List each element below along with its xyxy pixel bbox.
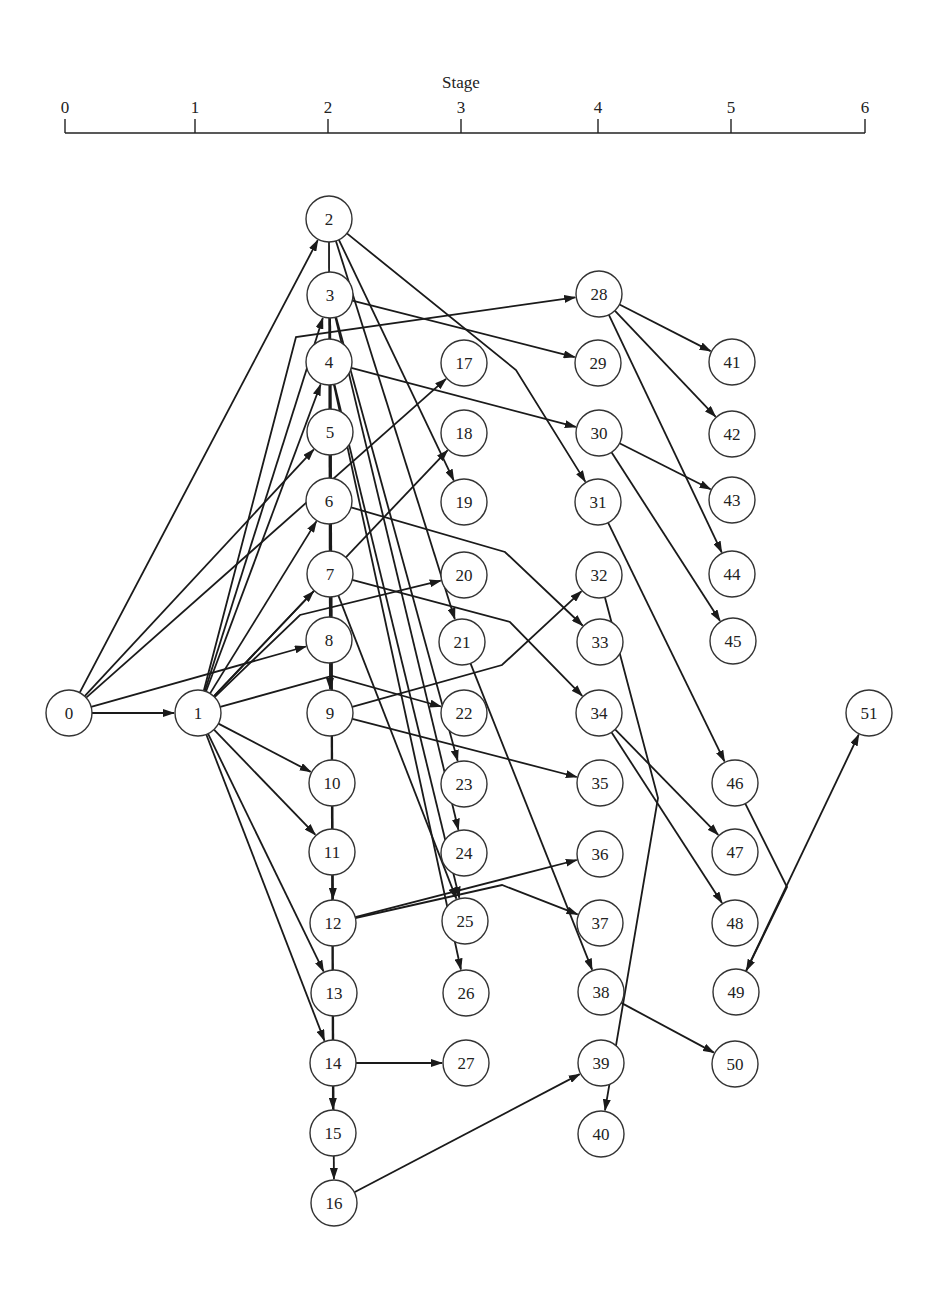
node-label: 12 bbox=[325, 914, 342, 933]
node-label: 8 bbox=[325, 631, 334, 650]
edge-21-to-38 bbox=[471, 663, 593, 969]
node-label: 32 bbox=[591, 566, 608, 585]
node-20: 20 bbox=[441, 552, 487, 598]
node-label: 4 bbox=[325, 353, 334, 372]
node-label: 10 bbox=[324, 774, 341, 793]
node-23: 23 bbox=[441, 761, 487, 807]
node-label: 30 bbox=[591, 424, 608, 443]
node-9: 9 bbox=[307, 690, 353, 736]
node-24: 24 bbox=[441, 830, 487, 876]
node-label: 37 bbox=[592, 914, 610, 933]
node-2: 2 bbox=[306, 196, 352, 242]
node-17: 17 bbox=[441, 340, 487, 386]
node-18: 18 bbox=[441, 410, 487, 456]
node-44: 44 bbox=[709, 551, 755, 597]
edge-34-to-48 bbox=[612, 732, 723, 903]
node-34: 34 bbox=[576, 690, 622, 736]
node-13: 13 bbox=[311, 970, 357, 1016]
node-51: 51 bbox=[846, 690, 892, 736]
node-label: 35 bbox=[592, 774, 609, 793]
node-7: 7 bbox=[307, 551, 353, 597]
edge-28-to-42 bbox=[615, 311, 716, 417]
node-label: 2 bbox=[325, 210, 334, 229]
node-12: 12 bbox=[310, 900, 356, 946]
node-5: 5 bbox=[307, 409, 353, 455]
node-1: 1 bbox=[175, 690, 221, 736]
axis-tick-label: 6 bbox=[861, 98, 870, 117]
node-37: 37 bbox=[577, 900, 623, 946]
node-label: 13 bbox=[326, 984, 343, 1003]
node-label: 44 bbox=[724, 565, 742, 584]
edge-38-to-50 bbox=[621, 1003, 714, 1053]
edge-1-to-11 bbox=[214, 730, 315, 835]
node-19: 19 bbox=[441, 479, 487, 525]
node-38: 38 bbox=[578, 969, 624, 1015]
node-40: 40 bbox=[578, 1111, 624, 1157]
node-label: 45 bbox=[725, 632, 742, 651]
node-30: 30 bbox=[576, 410, 622, 456]
node-8: 8 bbox=[306, 617, 352, 663]
node-35: 35 bbox=[577, 760, 623, 806]
node-label: 23 bbox=[456, 775, 473, 794]
node-36: 36 bbox=[577, 831, 623, 877]
node-label: 20 bbox=[456, 566, 473, 585]
node-3: 3 bbox=[307, 272, 353, 318]
node-28: 28 bbox=[576, 271, 622, 317]
node-label: 9 bbox=[326, 704, 335, 723]
node-22: 22 bbox=[441, 690, 487, 736]
node-label: 3 bbox=[326, 286, 335, 305]
node-label: 11 bbox=[324, 843, 340, 862]
edge-2-to-19 bbox=[339, 240, 454, 480]
node-label: 48 bbox=[727, 914, 744, 933]
node-label: 14 bbox=[325, 1054, 343, 1073]
node-6: 6 bbox=[306, 478, 352, 524]
node-41: 41 bbox=[709, 339, 755, 385]
axis-tick-label: 2 bbox=[324, 98, 333, 117]
node-label: 41 bbox=[724, 353, 741, 372]
node-10: 10 bbox=[309, 760, 355, 806]
edge-30-to-43 bbox=[620, 443, 711, 489]
node-39: 39 bbox=[578, 1040, 624, 1086]
node-label: 17 bbox=[456, 354, 474, 373]
node-label: 28 bbox=[591, 285, 608, 304]
node-16: 16 bbox=[311, 1180, 357, 1226]
node-label: 34 bbox=[591, 704, 609, 723]
node-47: 47 bbox=[712, 829, 758, 875]
node-label: 38 bbox=[593, 983, 610, 1002]
edge-0-to-5 bbox=[85, 450, 314, 696]
stage-axis: Stage 0123456 bbox=[61, 73, 870, 133]
node-label: 27 bbox=[458, 1054, 476, 1073]
axis-tick-label: 3 bbox=[457, 98, 466, 117]
axis-tick-label: 1 bbox=[191, 98, 200, 117]
node-label: 24 bbox=[456, 844, 474, 863]
edge-4-to-26 bbox=[334, 385, 461, 970]
node-11: 11 bbox=[309, 829, 355, 875]
node-0: 0 bbox=[46, 690, 92, 736]
node-4: 4 bbox=[306, 339, 352, 385]
edge-49-to-51 bbox=[746, 735, 859, 972]
node-label: 29 bbox=[590, 354, 607, 373]
node-label: 18 bbox=[456, 424, 473, 443]
node-label: 33 bbox=[592, 633, 609, 652]
node-label: 5 bbox=[326, 423, 335, 442]
axis-ticks: 0123456 bbox=[61, 98, 870, 133]
edge-16-to-39 bbox=[354, 1074, 579, 1192]
node-label: 22 bbox=[456, 704, 473, 723]
node-label: 31 bbox=[590, 493, 607, 512]
node-50: 50 bbox=[712, 1041, 758, 1087]
node-14: 14 bbox=[310, 1040, 356, 1086]
node-label: 50 bbox=[727, 1055, 744, 1074]
node-29: 29 bbox=[575, 340, 621, 386]
node-label: 47 bbox=[727, 843, 745, 862]
node-label: 6 bbox=[325, 492, 334, 511]
node-label: 16 bbox=[326, 1194, 343, 1213]
node-42: 42 bbox=[709, 411, 755, 457]
nodes: 0123456789101112131415161718192021222324… bbox=[46, 196, 892, 1226]
node-label: 0 bbox=[65, 704, 74, 723]
node-label: 43 bbox=[724, 491, 741, 510]
axis-title: Stage bbox=[442, 73, 480, 92]
edge-31-to-46 bbox=[608, 523, 724, 762]
node-label: 40 bbox=[593, 1125, 610, 1144]
node-label: 15 bbox=[325, 1124, 342, 1143]
node-label: 26 bbox=[458, 984, 475, 1003]
